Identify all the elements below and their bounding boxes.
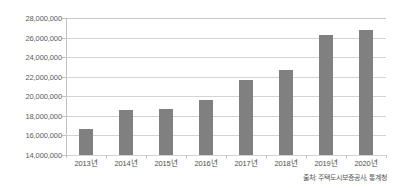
- bar: [239, 80, 253, 155]
- bar: [279, 70, 293, 155]
- x-axis-tick-label: 2019년: [314, 157, 337, 168]
- x-axis-tick-label: 2015년: [154, 157, 177, 168]
- bar-slot: [226, 18, 266, 155]
- x-axis-tick-mark: [186, 155, 187, 158]
- bar-slot: [146, 18, 186, 155]
- x-axis-tick-labels: 2013년2014년2015년2016년2017년2018년2019년2020년: [66, 157, 386, 171]
- x-axis-tick-label: 2013년: [74, 157, 97, 168]
- bar-slot: [266, 18, 306, 155]
- x-axis-tick-label: 2014년: [114, 157, 137, 168]
- bar-slot: [346, 18, 386, 155]
- x-axis-tick-mark: [306, 155, 307, 158]
- x-axis-tick-mark: [146, 155, 147, 158]
- x-axis-tick-mark: [346, 155, 347, 158]
- bar: [359, 30, 373, 155]
- source-note: 출처: 주택도시보증공사, 통계청: [303, 172, 387, 182]
- bar-slot: [106, 18, 146, 155]
- x-axis-tick-label: 2018년: [274, 157, 297, 168]
- x-axis-tick-label: 2016년: [194, 157, 217, 168]
- x-axis-tick-label: 2017년: [234, 157, 257, 168]
- bar-slot: [306, 18, 346, 155]
- x-axis-tick-mark: [226, 155, 227, 158]
- bar-slot: [66, 18, 106, 155]
- bar: [199, 100, 213, 155]
- x-axis-tick-mark: [66, 155, 67, 158]
- y-axis-tick-marks: [0, 18, 66, 155]
- bar-chart-figure: 14,000,00016,000,00018,000,00020,000,000…: [0, 0, 395, 188]
- bar-slot: [186, 18, 226, 155]
- x-axis-tick-mark: [386, 155, 387, 158]
- x-axis-tick-mark: [266, 155, 267, 158]
- bar: [119, 110, 133, 155]
- bar: [319, 35, 333, 155]
- x-axis-tick-mark: [106, 155, 107, 158]
- x-axis-tick-label: 2020년: [354, 157, 377, 168]
- plot-area: [66, 18, 386, 155]
- bar: [159, 109, 173, 155]
- bar: [79, 129, 93, 155]
